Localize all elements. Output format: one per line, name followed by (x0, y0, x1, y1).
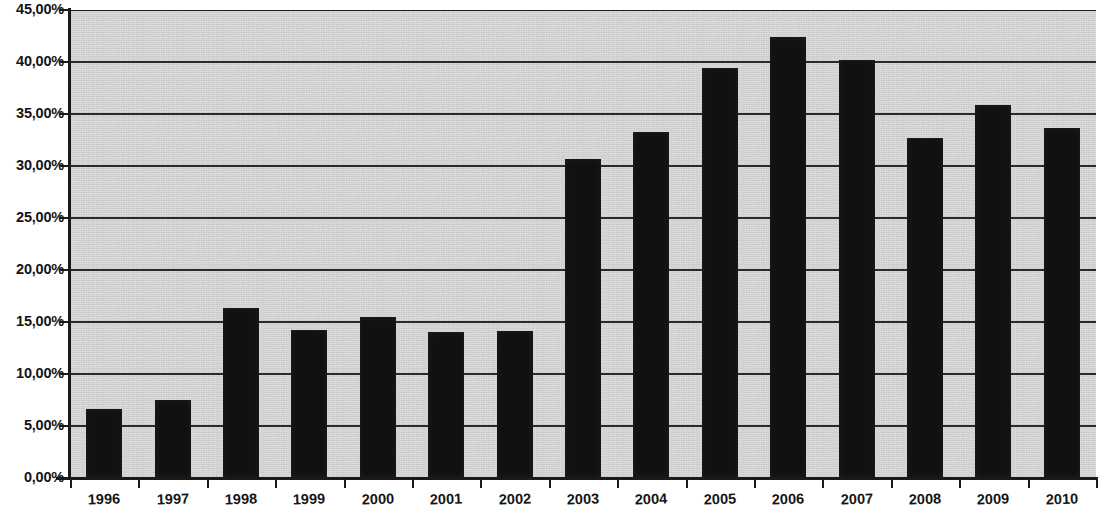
x-tick-label: 2010 (1026, 490, 1099, 509)
y-tick-label: 15,00% (0, 313, 64, 329)
x-tick-label: 2008 (889, 490, 962, 509)
x-tick-label: 2001 (410, 490, 483, 509)
bar (770, 37, 806, 478)
y-tick-label: 35,00% (0, 105, 64, 121)
y-axis-line (68, 8, 71, 480)
x-tick-mark (207, 479, 209, 488)
x-tick-label: 2005 (684, 490, 757, 509)
bar (428, 332, 464, 478)
bar (360, 317, 396, 478)
x-axis-line (56, 477, 1098, 480)
x-tick-mark (412, 479, 414, 488)
x-tick-mark (1028, 479, 1030, 488)
x-tick-mark (617, 479, 619, 488)
x-tick-mark (480, 479, 482, 488)
bar (702, 68, 738, 478)
bar (907, 138, 943, 478)
x-tick-label: 2003 (547, 490, 620, 509)
x-tick-mark (344, 479, 346, 488)
bar (839, 60, 875, 478)
bar (1044, 128, 1080, 478)
bar (975, 105, 1011, 478)
gridline (70, 10, 1096, 11)
bar (291, 330, 327, 478)
bar (86, 409, 122, 478)
x-tick-label: 2006 (752, 490, 825, 509)
x-tick-mark (1096, 479, 1098, 488)
x-tick-label: 1997 (136, 490, 209, 509)
y-tick-label: 45,00% (0, 1, 64, 17)
y-tick-label: 30,00% (0, 157, 64, 173)
gridline (70, 113, 1096, 115)
bar (633, 132, 669, 478)
x-tick-mark (138, 479, 140, 488)
y-tick-label: 20,00% (0, 261, 64, 277)
bar (565, 159, 601, 478)
x-tick-label: 1999 (273, 490, 346, 509)
x-tick-mark (754, 479, 756, 488)
x-tick-label: 1996 (68, 490, 141, 509)
plot-area (70, 10, 1096, 478)
x-tick-label: 2009 (957, 490, 1030, 509)
x-tick-label: 2007 (820, 490, 893, 509)
y-tick-label: 10,00% (0, 365, 64, 381)
x-tick-mark (822, 479, 824, 488)
x-tick-mark (891, 479, 893, 488)
x-tick-mark (686, 479, 688, 488)
x-tick-label: 2002 (478, 490, 551, 509)
y-tick-label: 25,00% (0, 209, 64, 225)
y-tick-label: 40,00% (0, 53, 64, 69)
x-tick-label: 1998 (205, 490, 278, 509)
bar-chart: 0,00%5,00%10,00%15,00%20,00%25,00%30,00%… (0, 0, 1110, 528)
x-tick-mark (70, 479, 72, 488)
y-tick-label: 5,00% (0, 417, 64, 433)
bar (497, 331, 533, 478)
x-tick-mark (549, 479, 551, 488)
y-tick-label: 0,00% (0, 469, 64, 485)
x-tick-mark (959, 479, 961, 488)
gridline (70, 61, 1096, 63)
x-tick-label: 2000 (342, 490, 415, 509)
bar (223, 308, 259, 478)
bar (155, 400, 191, 478)
x-tick-mark (275, 479, 277, 488)
x-tick-label: 2004 (615, 490, 688, 509)
